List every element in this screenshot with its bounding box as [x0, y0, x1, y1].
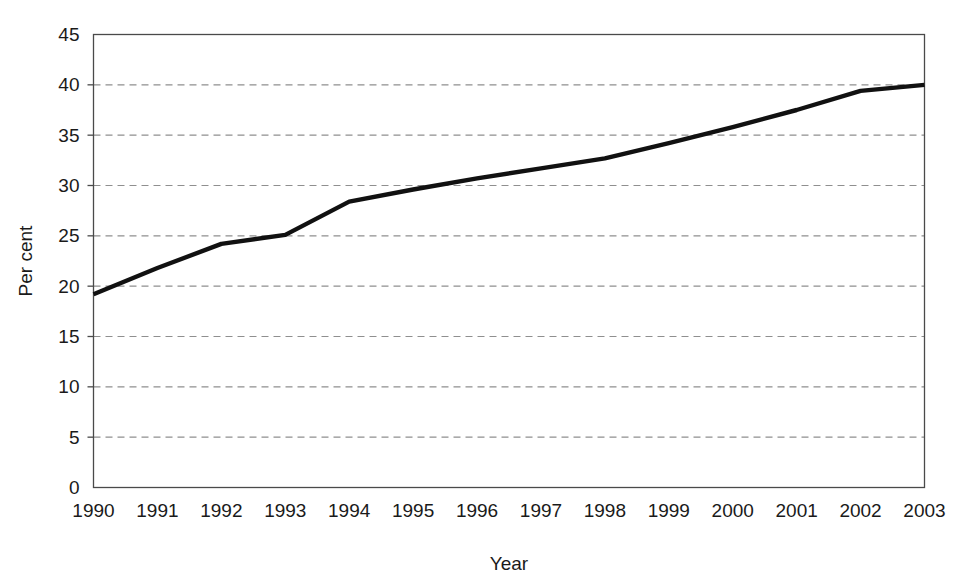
x-axis-tick-label: 1999	[648, 500, 690, 521]
y-axis-tick-label: 40	[58, 74, 79, 95]
y-axis-tick-label: 30	[58, 175, 79, 196]
y-axis-tick-label: 25	[58, 225, 79, 246]
x-axis-tick-label: 1990	[72, 500, 114, 521]
y-axis-tick-label: 35	[58, 125, 79, 146]
y-axis-tick-label: 15	[58, 326, 79, 347]
x-axis-tick-label: 2001	[776, 500, 818, 521]
y-axis-tick-label: 5	[69, 427, 80, 448]
x-axis-title: Year	[490, 553, 529, 574]
chart-canvas: 051015202530354045 199019911992199319941…	[0, 0, 966, 584]
x-axis-tick-label: 2002	[839, 500, 881, 521]
x-axis-tick-label: 1995	[392, 500, 434, 521]
chart-background	[0, 0, 966, 584]
y-axis-title: Per cent	[15, 225, 36, 296]
x-axis-tick-label: 1993	[264, 500, 306, 521]
x-axis-tick-label: 1997	[520, 500, 562, 521]
x-axis-tick-label: 1991	[136, 500, 178, 521]
y-axis-tick-label: 20	[58, 276, 79, 297]
x-axis-tick-label: 1998	[584, 500, 626, 521]
y-axis-tick-label: 10	[58, 376, 79, 397]
x-axis-tick-label: 2003	[903, 500, 945, 521]
x-axis-tick-label: 1992	[200, 500, 242, 521]
y-axis-tick-label: 45	[58, 24, 79, 45]
line-chart: 051015202530354045 199019911992199319941…	[0, 0, 966, 584]
y-axis-tick-label: 0	[69, 477, 80, 498]
x-axis-tick-label: 1996	[456, 500, 498, 521]
x-axis-tick-label: 2000	[712, 500, 754, 521]
x-axis-tick-label: 1994	[328, 500, 371, 521]
